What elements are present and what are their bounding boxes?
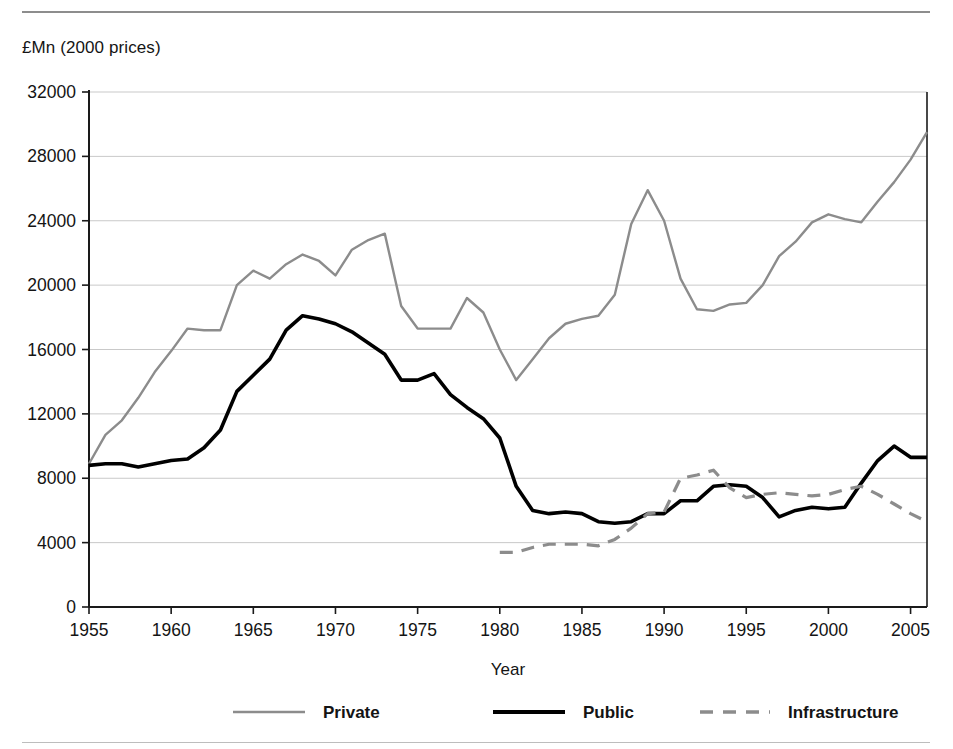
chart-svg: 0400080001200016000200002400028000320001…	[0, 0, 953, 749]
y-tick-label: 28000	[27, 146, 76, 166]
y-tick-label: 16000	[27, 340, 76, 360]
y-tick-label: 8000	[37, 468, 76, 488]
bottom-rule	[22, 742, 930, 743]
y-tick-label: 32000	[27, 82, 76, 102]
x-tick-label: 1960	[152, 620, 191, 640]
x-tick-label: 2000	[809, 620, 848, 640]
x-tick-label: 1970	[316, 620, 355, 640]
y-tick-label: 12000	[27, 404, 76, 424]
y-tick-label: 20000	[27, 275, 76, 295]
x-tick-label: 1995	[727, 620, 766, 640]
y-tick-label: 4000	[37, 533, 76, 553]
series-line-public	[89, 316, 927, 524]
x-tick-label: 2005	[891, 620, 930, 640]
x-tick-label: 1980	[480, 620, 519, 640]
figure-page: £Mn (2000 prices) 0400080001200016000200…	[0, 0, 953, 749]
x-tick-label: 1990	[645, 620, 684, 640]
legend-label-private: Private	[323, 703, 380, 722]
x-tick-label: 1965	[234, 620, 273, 640]
line-chart: 0400080001200016000200002400028000320001…	[0, 0, 953, 749]
legend-label-infrastructure: Infrastructure	[788, 703, 899, 722]
x-tick-label: 1975	[398, 620, 437, 640]
legend-label-public: Public	[583, 703, 634, 722]
x-tick-label: 1955	[70, 620, 109, 640]
x-axis-title: Year	[491, 660, 526, 679]
y-tick-label: 24000	[27, 211, 76, 231]
x-tick-label: 1985	[562, 620, 601, 640]
y-tick-label: 0	[66, 597, 76, 617]
